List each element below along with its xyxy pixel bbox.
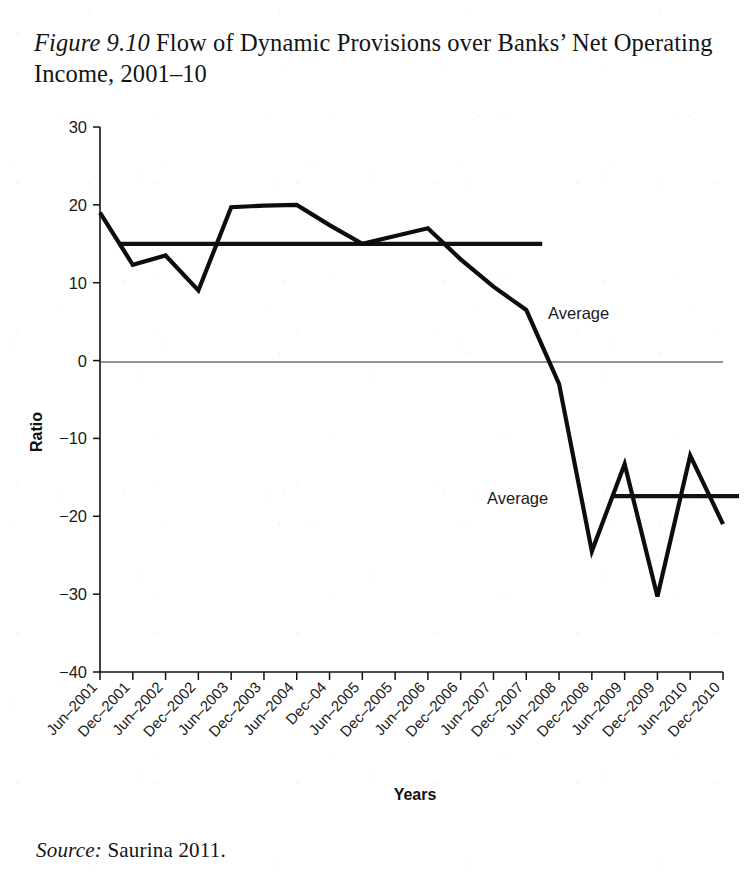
series-line: [100, 205, 723, 597]
average-label-upper: Average: [548, 304, 609, 322]
y-tick-label: −20: [59, 507, 87, 525]
x-axis-ticks: Jun–2001Dec–2001Jun–2002Dec–2002Jun–2003…: [43, 672, 723, 740]
y-tick-label: 20: [69, 196, 87, 214]
y-tick-label: 30: [69, 118, 87, 136]
source-label: Source:: [36, 838, 102, 862]
y-tick-label: 10: [69, 274, 87, 292]
data-series-group: [100, 205, 723, 597]
y-tick-label: 0: [78, 352, 87, 370]
line-chart: 3020100−10−20−30−40 Jun–2001Dec–2001Jun–…: [0, 0, 756, 873]
y-tick-label: −10: [59, 429, 87, 447]
chart-axes: [100, 127, 723, 672]
average-label-lower: Average: [487, 489, 548, 507]
chart-container: 3020100−10−20−30−40 Jun–2001Dec–2001Jun–…: [0, 0, 756, 873]
source-text: Saurina 2011.: [102, 838, 226, 862]
average-reference-lines: [120, 244, 739, 496]
source-note: Source: Saurina 2011.: [36, 838, 226, 863]
y-axis-title: Ratio: [28, 412, 45, 452]
x-axis-title: Years: [394, 786, 437, 803]
y-tick-label: −40: [59, 663, 87, 681]
y-tick-label: −30: [59, 585, 87, 603]
y-axis-ticks: 3020100−10−20−30−40: [59, 118, 100, 681]
